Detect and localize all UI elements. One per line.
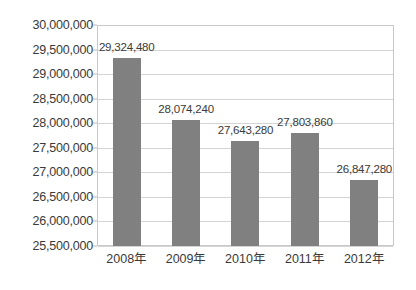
bar-group: 27,803,860	[275, 25, 334, 246]
y-axis-tick-label: 27,500,000	[32, 141, 93, 155]
y-axis: 30,000,00029,500,00029,000,00028,500,000…	[0, 25, 97, 246]
x-axis-tick-label: 2008年	[106, 248, 147, 267]
bar-group: 26,847,280	[335, 25, 394, 246]
y-axis-tick-label: 28,500,000	[32, 92, 93, 106]
bar-chart: 30,000,00029,500,00029,000,00028,500,000…	[0, 0, 416, 290]
bar[interactable]	[291, 133, 319, 246]
x-axis-tick-label: 2012年	[344, 248, 385, 267]
x-axis-tick-label: 2010年	[225, 248, 266, 267]
bar[interactable]	[350, 180, 378, 246]
x-axis-tick-label: 2011年	[285, 248, 325, 267]
bar-group: 27,643,280	[216, 25, 275, 246]
bar-group: 28,074,240	[156, 25, 215, 246]
bar[interactable]	[113, 58, 141, 246]
x-axis-tick-label: 2009年	[166, 248, 207, 267]
y-axis-tick-label: 29,500,000	[32, 43, 93, 57]
bar[interactable]	[172, 120, 200, 246]
bar[interactable]	[231, 141, 259, 246]
bar-group: 29,324,480	[97, 25, 156, 246]
y-axis-tick-label: 30,000,000	[32, 18, 93, 32]
y-axis-tick-label: 26,500,000	[32, 190, 93, 204]
x-axis: 2008年2009年2010年2011年2012年	[97, 248, 394, 270]
bar-value-label: 27,643,280	[218, 124, 274, 136]
bars-layer: 29,324,48028,074,24027,643,28027,803,860…	[97, 25, 394, 246]
bar-value-label: 28,074,240	[158, 103, 214, 115]
bar-value-label: 27,803,860	[277, 116, 333, 128]
y-axis-tick-label: 27,000,000	[32, 165, 93, 179]
y-axis-tick-label: 25,500,000	[32, 239, 93, 253]
bar-value-label: 29,324,480	[99, 41, 155, 53]
y-axis-tick-label: 26,000,000	[32, 214, 93, 228]
bar-value-label: 26,847,280	[337, 163, 393, 175]
gridline	[98, 246, 393, 247]
y-axis-tick-label: 28,000,000	[32, 116, 93, 130]
y-axis-tick-label: 29,000,000	[32, 67, 93, 81]
